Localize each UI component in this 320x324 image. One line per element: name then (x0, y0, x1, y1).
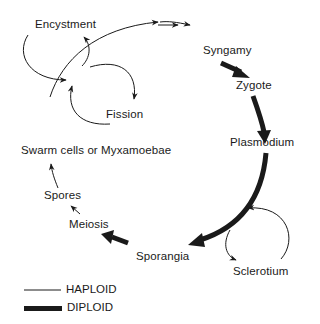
encystment-loop-in (23, 35, 66, 80)
node-syngamy: Syngamy (203, 44, 252, 56)
node-meiosis: Meiosis (69, 218, 109, 230)
node-sclerotium: Sclerotium (233, 265, 288, 277)
node-fission: Fission (106, 108, 143, 120)
node-plasmodium: Plasmodium (230, 136, 294, 148)
haploid-double-arrow-2 (160, 22, 190, 25)
node-spores: Spores (44, 189, 81, 201)
node-encystment: Encystment (35, 18, 96, 30)
diploid-arrow-zygote-plasmodium (253, 96, 264, 132)
fission-loop-in (71, 86, 110, 124)
legend-diploid-bar (24, 306, 62, 311)
encystment-loop-out (82, 37, 89, 66)
diploid-arrow-plasmodium-sporangia (200, 153, 266, 240)
haploid-arc-to-syngamy (50, 22, 158, 97)
node-sporangia: Sporangia (136, 250, 189, 262)
haploid-arrow-meiosis-spores (71, 206, 80, 214)
fission-loop-out (90, 64, 135, 99)
sclerotium-loop-out (226, 230, 236, 260)
node-swarm-cells: Swarm cells or Myxamoebae (21, 144, 171, 156)
legend-diploid-label: DIPLOID (67, 301, 113, 313)
diploid-arrow-sporangia-meiosis (112, 237, 128, 243)
haploid-arrow-spores-swarm (51, 164, 58, 188)
node-zygote: Zygote (236, 79, 272, 91)
legend-haploid-label: HAPLOID (66, 283, 117, 295)
sclerotium-loop-in (248, 208, 289, 259)
